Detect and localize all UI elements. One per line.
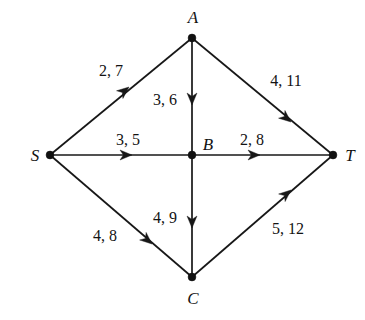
- edge-line-c-t: [192, 155, 333, 277]
- node-dot-s: [46, 151, 54, 159]
- edge-label-s-c: 4, 8: [93, 228, 117, 244]
- edge-label-a-t: 4, 11: [270, 73, 301, 89]
- edge-label-b-c: 4, 9: [153, 210, 177, 226]
- arrow-head-shape-s-a: [117, 83, 133, 98]
- edge-label-b-t: 2, 8: [240, 132, 264, 148]
- node-label-b: B: [203, 136, 213, 153]
- node-label-a: A: [188, 9, 198, 26]
- node-dot-b: [188, 151, 196, 159]
- node-dot-t: [329, 151, 337, 159]
- edge-label-s-a: 2, 7: [99, 63, 123, 79]
- node-label-c: C: [187, 290, 198, 307]
- edge-label-s-b: 3, 5: [116, 132, 140, 148]
- flow-network-figure: S A B C T 2, 7 4, 11 3, 6 3, 5 2, 8 4, 8…: [0, 0, 365, 320]
- network-graph-canvas: [0, 0, 365, 320]
- edge-label-c-t: 5, 12: [272, 221, 304, 237]
- edge-label-a-b: 3, 6: [153, 92, 177, 108]
- node-label-t: T: [345, 147, 354, 164]
- node-label-s: S: [31, 147, 40, 164]
- arrow-head-s-a: [117, 83, 133, 98]
- node-dot-c: [188, 273, 196, 281]
- node-dot-a: [188, 34, 196, 42]
